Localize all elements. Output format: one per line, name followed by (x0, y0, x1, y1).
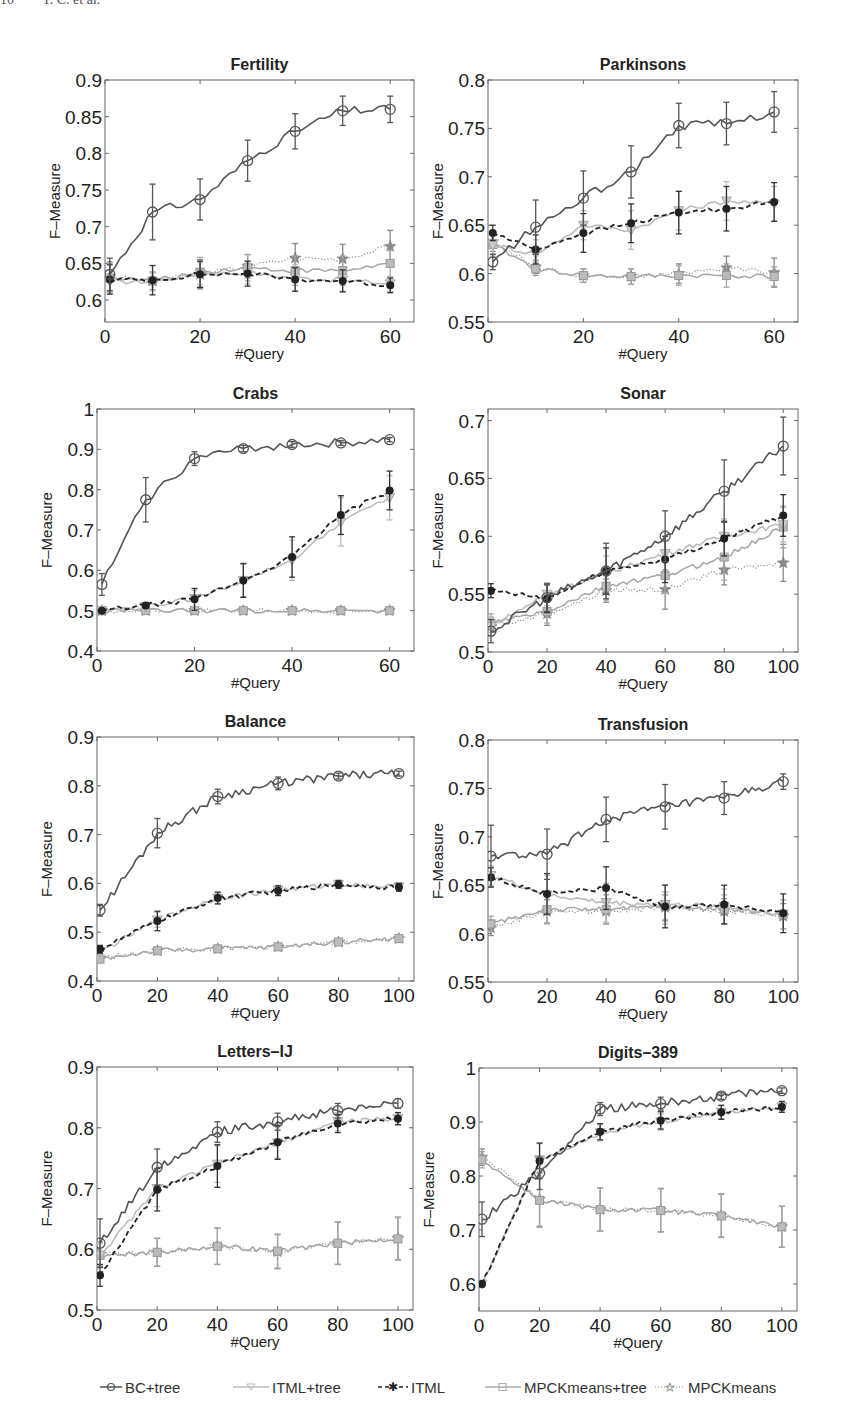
y-tick-label: 1 (465, 1058, 476, 1079)
y-tick-label: 0.6 (459, 264, 485, 285)
y-tick-label: 0.8 (68, 480, 94, 501)
x-tick-label: 20 (573, 326, 594, 347)
chart-panel-crabs: Crabs0.40.50.60.70.80.910204060#QueryF–M… (38, 385, 414, 691)
y-tick-label: 0.8 (68, 1118, 94, 1139)
y-tick-label: 0.7 (68, 520, 94, 541)
chart-title: Crabs (233, 385, 278, 402)
x-tick-label: 100 (382, 1314, 414, 1335)
x-tick-label: 80 (714, 656, 735, 677)
y-tick-label: 0.6 (450, 1274, 476, 1295)
y-tick-label: 0.5 (459, 642, 485, 663)
series-mpckmeans-tree (96, 935, 403, 963)
svg-text:★: ★ (665, 1381, 675, 1393)
x-tick-label: 80 (714, 986, 735, 1007)
y-tick-label: 0.55 (448, 312, 485, 333)
y-tick-label: 0.4 (68, 641, 95, 662)
legend-label: MPCKmeans (688, 1379, 776, 1396)
x-tick-label: 80 (711, 1315, 732, 1336)
y-tick-label: 0.65 (448, 875, 485, 896)
solid-line-circle-icon (100, 1381, 122, 1393)
legend-label: ITML (411, 1379, 445, 1396)
chart-title: Transfusion (598, 716, 689, 733)
x-tick-label: 0 (92, 1314, 103, 1335)
x-tick-label: 80 (328, 985, 349, 1006)
series-bc-tree (477, 1086, 787, 1237)
y-tick-label: 0.65 (65, 253, 102, 274)
x-tick-label: 40 (590, 1315, 611, 1336)
dotted-line-star-icon: ★ (655, 1381, 685, 1393)
chart-panel-digits-389: Digits–3890.60.70.80.91020406080100#Quer… (420, 1044, 798, 1351)
y-axis-label: F–Measure (38, 1151, 55, 1227)
solid-line-triangle-icon (233, 1381, 269, 1393)
chart-panel-sonar: Sonar0.50.550.60.650.7020406080100#Query… (429, 385, 799, 692)
x-tick-label: 40 (207, 985, 228, 1006)
legend-item-mpckmeans-tree: MPCKmeans+tree (485, 1372, 647, 1402)
x-tick-label: 0 (100, 326, 111, 347)
chart-panel-parkinsons: Parkinsons0.550.60.650.70.750.80204060#Q… (429, 56, 798, 362)
y-tick-label: 0.9 (76, 70, 102, 91)
chart-title: Parkinsons (600, 56, 686, 73)
x-axis-label: #Query (618, 675, 668, 692)
chart-title: Letters–IJ (217, 1043, 293, 1060)
solid-line-square-icon (485, 1381, 521, 1393)
series-mpckmeans-tree (487, 506, 787, 632)
y-tick-label: 0.6 (459, 526, 485, 547)
series-mpckmeans (485, 895, 789, 936)
y-tick-label: 0.9 (450, 1112, 476, 1133)
x-tick-label: 0 (92, 655, 103, 676)
series-mpckmeans-tree (489, 233, 778, 287)
svg-text:✱: ✱ (388, 1381, 398, 1393)
x-tick-label: 40 (596, 656, 617, 677)
y-tick-label: 0.9 (68, 727, 94, 748)
series-mpckmeans-tree (96, 1218, 402, 1268)
legend-label: MPCKmeans+tree (524, 1379, 647, 1396)
x-tick-label: 20 (536, 986, 557, 1007)
y-axis-label: F–Measure (429, 823, 446, 899)
legend-item-itml: ✱ ITML (378, 1372, 445, 1402)
x-tick-label: 40 (282, 655, 303, 676)
series-bc-tree (486, 774, 788, 887)
y-tick-label: 0.5 (68, 601, 94, 622)
y-axis-label: F–Measure (46, 163, 63, 239)
series-itml (96, 1113, 402, 1287)
x-axis-label: #Query (231, 674, 281, 691)
y-tick-label: 0.9 (68, 439, 94, 460)
y-tick-label: 0.7 (459, 827, 485, 848)
x-tick-label: 20 (184, 655, 205, 676)
y-tick-label: 0.6 (68, 560, 94, 581)
legend-label: ITML+tree (272, 1379, 341, 1396)
x-tick-label: 0 (483, 656, 494, 677)
x-tick-label: 40 (668, 326, 689, 347)
chart-panel-transfusion: Transfusion0.550.60.650.70.750.802040608… (429, 716, 799, 1022)
y-axis-label: F–Measure (38, 492, 55, 568)
series-itml (96, 880, 403, 953)
series-itml-tree (486, 507, 788, 635)
y-tick-label: 0.55 (448, 972, 485, 993)
legend-item-bc-tree: BC+tree (100, 1372, 180, 1402)
x-tick-label: 20 (190, 326, 211, 347)
chart-panel-balance: Balance0.40.50.60.70.80.9020406080100#Qu… (38, 713, 415, 1021)
chart-title: Fertility (231, 56, 289, 73)
y-tick-label: 0.9 (68, 1057, 94, 1078)
y-tick-label: 0.6 (68, 1239, 94, 1260)
series-mpckmeans (94, 1217, 403, 1269)
legend: BC+tree ITML+tree ✱ ITML MPCKmeans+tree … (100, 1372, 780, 1402)
y-tick-label: 0.7 (76, 217, 102, 238)
legend-item-mpckmeans: ★ MPCKmeans (655, 1372, 776, 1402)
legend-label: BC+tree (125, 1379, 180, 1396)
y-tick-label: 0.5 (68, 1300, 94, 1321)
y-tick-label: 0.5 (68, 922, 94, 943)
y-tick-label: 1 (83, 399, 94, 420)
y-axis-label: F–Measure (429, 493, 446, 569)
x-axis-label: #Query (235, 345, 285, 362)
x-tick-label: 0 (474, 1315, 485, 1336)
series-bc-tree (97, 435, 395, 596)
x-tick-label: 0 (483, 326, 494, 347)
x-tick-label: 60 (655, 656, 676, 677)
y-axis-label: F–Measure (420, 1152, 437, 1228)
x-tick-label: 40 (207, 1314, 228, 1335)
series-mpckmeans (94, 933, 404, 963)
x-tick-label: 40 (596, 986, 617, 1007)
x-tick-label: 20 (147, 985, 168, 1006)
x-tick-label: 100 (767, 656, 799, 677)
